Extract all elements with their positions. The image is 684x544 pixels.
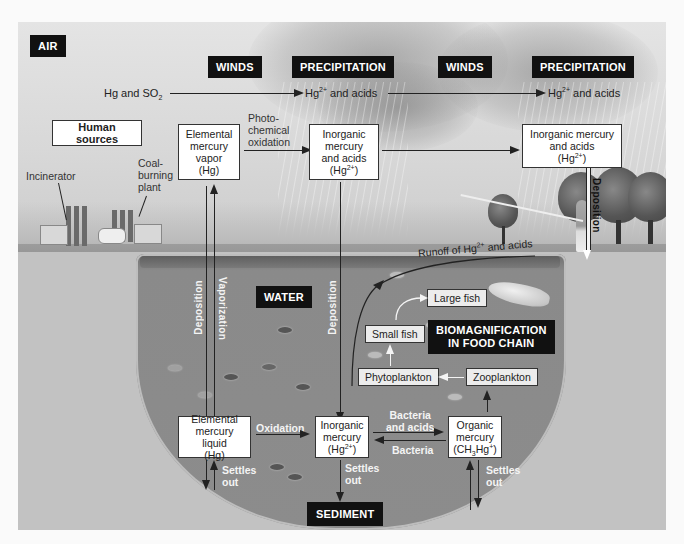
bacteria-label: Bacteria [392, 444, 433, 456]
coal-plant-label: Coal- burning plant [138, 157, 173, 193]
incinerator-label: Incinerator [26, 170, 76, 182]
end-precipitation-label: Hg2+ and acids [548, 87, 620, 99]
runoff-arrow [340, 248, 540, 388]
arrow-resuspend-up-left [214, 468, 215, 490]
smokestack [82, 206, 87, 246]
arrow-bacteria [382, 440, 446, 441]
vaporization-label: Vaporization [217, 277, 228, 340]
arrow-vaporization [214, 192, 215, 430]
header-winds: WINDS [438, 56, 492, 78]
arrowhead-up [466, 460, 474, 470]
smokestack [128, 210, 133, 242]
arrow-settles-down-right [478, 460, 479, 500]
arrowhead-right [510, 146, 520, 154]
incinerator-building [40, 225, 68, 245]
arrowhead-right [294, 89, 304, 97]
tree-trunk [616, 220, 621, 244]
settles-out-label-middle: Settles out [345, 462, 379, 486]
zone-label-water: WATER [256, 286, 312, 308]
header-precipitation: PRECIPITATION [292, 56, 394, 78]
arrowhead-up [210, 184, 218, 194]
arrow-bacteria-and-acids [373, 432, 435, 433]
arrowhead-right [536, 89, 546, 97]
arrow-photochemical-oxidation [244, 150, 304, 151]
elemental-mercury-vapor-box: Elemental mercury vapor (Hg) [178, 124, 240, 180]
arrow-small-to-large-fish [394, 292, 430, 322]
header-precipitation: PRECIPITATION [532, 56, 634, 78]
arrow-deposition-middle [340, 182, 341, 414]
arrowhead-down [336, 492, 344, 502]
arrowhead-left [374, 436, 384, 444]
smokestack [74, 206, 79, 246]
inorganic-mercury-acids-right-box: Inorganic mercury and acids (Hg2+) [522, 124, 622, 168]
zone-label-sediment: SEDIMENT [307, 502, 383, 526]
photochemical-oxidation-label: Photo- chemical oxidation [248, 112, 290, 148]
arrow-winds-2 [388, 93, 538, 94]
zone-label-air: AIR [30, 35, 66, 57]
coal-plant-tank [98, 228, 126, 244]
inorganic-mercury-acids-air-box: Inorganic mercury and acids (Hg2+) [309, 124, 379, 180]
settles-out-label-right: Settles out [486, 464, 520, 488]
fish [288, 474, 302, 480]
elemental-mercury-liquid-box: Elemental mercury liquid (Hg) [178, 416, 251, 458]
small-fish-box: Small fish [365, 325, 425, 343]
deposition-label-middle: Deposition [327, 280, 338, 335]
mid-precipitation-label: Hg2+ and acids [305, 87, 377, 99]
deposition-label-left: Deposition [193, 280, 204, 335]
fish [296, 384, 310, 390]
arrowhead-left [438, 373, 448, 381]
large-fish-box: Large fish [427, 289, 487, 307]
arrow-deposition-left [206, 186, 207, 422]
oxidation-label: Oxidation [256, 422, 304, 434]
phytoplankton-box: Phytoplankton [358, 368, 439, 386]
arrowhead-right [434, 428, 444, 436]
arrowhead-right [300, 430, 310, 438]
arrowhead-up [210, 460, 218, 470]
tree-trunk [648, 220, 653, 244]
arrowhead-down [202, 480, 210, 490]
tree [628, 172, 666, 222]
arrowhead-down [474, 498, 482, 508]
tree [488, 194, 518, 228]
arrowhead-down [583, 250, 591, 260]
fish [168, 365, 182, 371]
fish [270, 464, 284, 470]
human-sources-box: Human sources [52, 120, 142, 146]
arrowhead-up [483, 390, 491, 400]
fish [278, 327, 292, 333]
fish [262, 364, 276, 370]
bacteria-and-acids-label: Bacteria and acids [386, 409, 434, 433]
arrow-settles-down-middle [340, 460, 341, 494]
arrow-zoo-to-phyto [446, 377, 464, 378]
fish [448, 394, 462, 400]
coal-plant-building [134, 224, 162, 244]
organic-mercury-box: Organic mercury (CH3Hg+) [448, 416, 502, 458]
fish [198, 392, 212, 398]
deposition-label-right: Deposition [591, 178, 602, 233]
fish [224, 374, 238, 380]
inorganic-mercury-water-box: Inorganic mercury (Hg2+) [315, 416, 369, 458]
source-emission-label: Hg and SO2 [104, 87, 162, 99]
header-winds: WINDS [208, 56, 262, 78]
arrow-organic-to-food-chain [487, 398, 488, 412]
arrow-oxidation [256, 434, 302, 435]
arrow-winds-1 [170, 93, 296, 94]
zooplankton-box: Zooplankton [466, 368, 538, 386]
arrowhead-up [386, 344, 394, 354]
arrow-to-right-inorganic [382, 150, 512, 151]
arrow-settles-down-left [206, 460, 207, 482]
settles-out-label-left: Settles out [222, 464, 256, 488]
arrow-resuspend-up-right [470, 468, 471, 510]
biomagnification-label: BIOMAGNIFICATION IN FOOD CHAIN [428, 320, 555, 354]
